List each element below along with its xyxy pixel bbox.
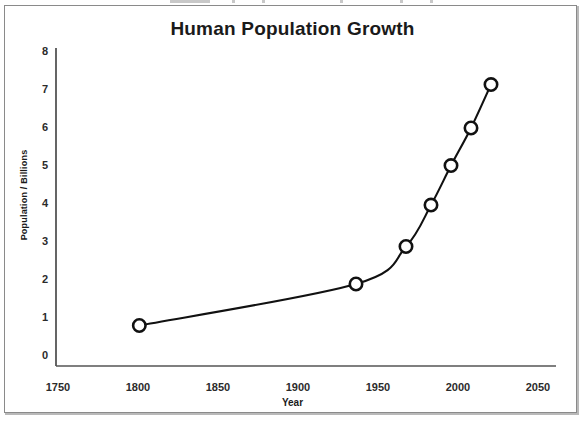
x-tick-label-1750: 1750	[28, 381, 88, 393]
frame-shadow-bottom	[5, 413, 579, 415]
y-tick-label-8: 8	[24, 45, 48, 57]
x-axis-title: Year	[0, 397, 585, 408]
x-tick-label-1850: 1850	[188, 381, 248, 393]
x-tick-label-1900: 1900	[268, 381, 328, 393]
y-tick-label-7: 7	[24, 83, 48, 95]
x-tick-label-2000: 2000	[428, 381, 488, 393]
chart-screenshot: Human Population Growth Population / Bil…	[0, 0, 585, 423]
chart-frame	[4, 5, 577, 413]
x-tick-label-1950: 1950	[348, 381, 408, 393]
frame-shadow-right	[577, 6, 579, 415]
y-tick-label-2: 2	[24, 273, 48, 285]
y-tick-label-6: 6	[24, 121, 48, 133]
y-tick-label-1: 1	[24, 311, 48, 323]
y-tick-label-4: 4	[24, 197, 48, 209]
chart-title: Human Population Growth	[0, 18, 585, 40]
x-tick-label-1800: 1800	[108, 381, 168, 393]
y-tick-label-3: 3	[24, 235, 48, 247]
y-tick-label-0: 0	[24, 349, 48, 361]
x-tick-label-2050: 2050	[508, 381, 568, 393]
y-tick-label-5: 5	[24, 159, 48, 171]
